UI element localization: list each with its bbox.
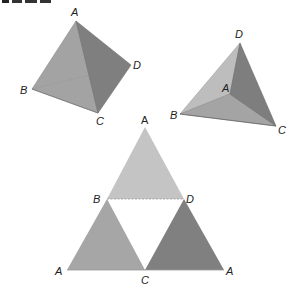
- label-a: A: [221, 82, 229, 94]
- cropped-title: [2, 0, 51, 3]
- net-face-top: [107, 127, 184, 199]
- diagram-canvas: A D B C D A B C A B D A C A: [0, 0, 298, 292]
- label-b: B: [170, 109, 177, 121]
- tetrahedron-diagram: A D B C D A B C A B D A C A: [0, 0, 298, 292]
- label-b: B: [20, 84, 27, 96]
- label-c: C: [141, 274, 149, 286]
- label-a: A: [70, 6, 78, 18]
- net-face-left: [67, 199, 145, 270]
- label-d: D: [235, 28, 243, 40]
- net-face-right: [145, 199, 224, 270]
- label-left-a: A: [54, 265, 62, 277]
- label-d: D: [133, 59, 141, 71]
- tetrahedron-left: A D B C: [20, 6, 141, 127]
- label-d: D: [186, 193, 194, 205]
- label-right-a: A: [225, 265, 233, 277]
- tetrahedron-right: D A B C: [170, 28, 286, 136]
- label-c: C: [96, 115, 104, 127]
- label-c: C: [278, 124, 286, 136]
- label-b: B: [93, 193, 100, 205]
- tetrahedron-net: A B D A C A: [54, 114, 233, 286]
- label-top-a: A: [141, 114, 149, 126]
